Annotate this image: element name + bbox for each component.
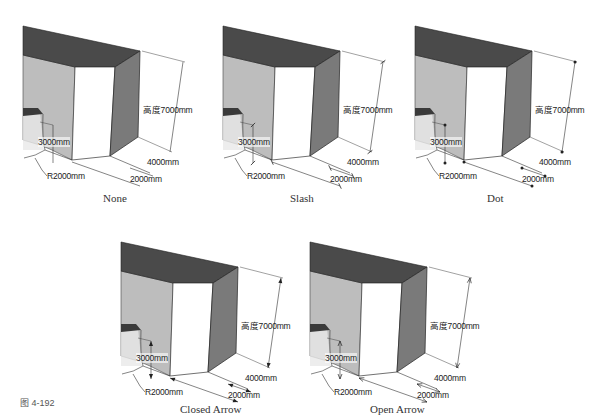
panel-slash: 高度7000mm 4000mm 2000mm 3000mm R2000mm Sl… — [200, 0, 400, 210]
width-dimension-label: 2000mm — [130, 174, 162, 184]
width-dimension-label: 2000mm — [417, 390, 449, 400]
panel-caption: Open Arrow — [370, 403, 425, 415]
opening-dimension-label: 3000mm — [325, 353, 357, 363]
depth-dimension-label: 4000mm — [245, 373, 277, 383]
radius-dimension-label: R2000mm — [247, 171, 285, 181]
width-dimension-label: 2000mm — [228, 390, 260, 400]
panel-caption: Dot — [487, 192, 504, 204]
panel-caption: Closed Arrow — [180, 403, 241, 415]
opening-dimension-label: 3000mm — [38, 137, 70, 147]
depth-dimension-label: 4000mm — [347, 157, 379, 167]
width-dimension-label: 2000mm — [522, 174, 554, 184]
panel-caption: None — [103, 192, 127, 204]
opening-dimension-label: 3000mm — [238, 137, 270, 147]
opening-dimension-label: 3000mm — [430, 137, 462, 147]
radius-dimension-label: R2000mm — [47, 171, 85, 181]
panel-open-arrow: 高度7000mm 4000mm 2000mm 3000mm R2000mm Op… — [287, 216, 487, 419]
width-dimension-label: 2000mm — [330, 174, 362, 184]
building-model-drawing — [98, 216, 298, 419]
height-dimension-label: 高度7000mm — [241, 319, 290, 331]
radius-dimension-label: R2000mm — [439, 171, 477, 181]
depth-dimension-label: 4000mm — [539, 157, 571, 167]
opening-dimension-label: 3000mm — [136, 353, 168, 363]
panel-dot: 高度7000mm 4000mm 2000mm 3000mm R2000mm Do… — [392, 0, 592, 210]
height-dimension-label: 高度7000mm — [430, 319, 479, 331]
height-dimension-label: 高度7000mm — [343, 103, 392, 115]
radius-dimension-label: R2000mm — [145, 387, 183, 397]
panel-closed-arrow: 高度7000mm 4000mm 2000mm 3000mm R2000mm Cl… — [98, 216, 298, 419]
height-dimension-label: 高度7000mm — [143, 103, 192, 115]
depth-dimension-label: 4000mm — [147, 157, 179, 167]
panel-none: 高度7000mm 4000mm 2000mm 3000mm R2000mm No… — [0, 0, 200, 210]
panel-caption: Slash — [290, 192, 314, 204]
figure-label: 图 4-192 — [20, 396, 55, 409]
depth-dimension-label: 4000mm — [434, 373, 466, 383]
height-dimension-label: 高度7000mm — [535, 103, 584, 115]
radius-dimension-label: R2000mm — [334, 387, 372, 397]
building-model-drawing — [287, 216, 487, 419]
